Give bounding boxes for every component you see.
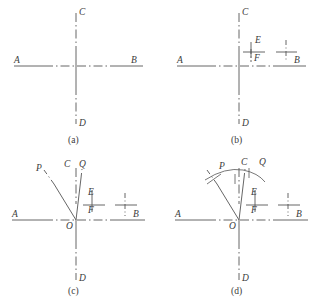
panel-d-caption: (d): [231, 287, 242, 297]
panel-d-ray-op-dashdot: [207, 170, 217, 184]
panel-c-label-b: B: [133, 210, 139, 220]
panel-c-label-d: D: [79, 274, 86, 284]
panel-a-label-b: B: [131, 56, 137, 66]
panel-c-ray-op-solid: [54, 184, 76, 220]
panel-c-label-c: C: [64, 160, 70, 170]
panel-d-label-q: Q: [259, 158, 266, 168]
panel-b-label-b: B: [294, 56, 300, 66]
panel-b-caption: (b): [231, 136, 242, 146]
panel-c-label-o: O: [66, 222, 73, 232]
panel-c-label-p: P: [36, 164, 42, 174]
panel-d-label-p: P: [219, 162, 225, 172]
panel-b-label-f: F: [254, 54, 260, 64]
panel-a-caption: (a): [68, 136, 79, 146]
panel-c-ray-oq-solid: [76, 178, 81, 220]
panel-d-label-f: F: [251, 206, 257, 216]
panel-a-label-c: C: [79, 8, 85, 18]
panel-d-geometry: [175, 168, 308, 280]
panel-d-ray-op-solid: [217, 184, 239, 220]
panel-c-label-f: F: [88, 206, 94, 216]
panel-d-label-o: O: [229, 222, 236, 232]
panel-d-label-c: C: [241, 158, 247, 168]
panel-d-arc-tick-on-op: [207, 174, 221, 184]
panel-c-ray-op-dashdot: [44, 170, 54, 184]
panel-c-label-a: A: [12, 210, 18, 220]
panel-a-geometry: [14, 13, 143, 124]
panel-d-ray-oq-solid: [239, 178, 244, 220]
panel-c-label-e: E: [88, 188, 94, 198]
panel-d-label-b: B: [296, 210, 302, 220]
panel-a-label-a: A: [14, 56, 20, 66]
panel-b-label-c: C: [242, 8, 248, 18]
panel-a-label-d: D: [79, 119, 86, 129]
panel-b-label-e: E: [255, 36, 261, 46]
panel-c-geometry: [12, 168, 145, 280]
panel-b-geometry: [177, 13, 306, 124]
figure-canvas: [0, 0, 325, 305]
panel-c-label-q: Q: [79, 160, 86, 170]
panel-c-ray-oq-dashdot: [81, 169, 82, 178]
panel-b-label-d: D: [242, 119, 249, 129]
panel-c-caption: (c): [68, 287, 79, 297]
panel-d-label-e: E: [251, 188, 257, 198]
construction-figure: A B C D (a) A B C D E F (b) A B C Q P D …: [0, 0, 325, 305]
panel-d-label-d: D: [242, 274, 249, 284]
panel-b-label-a: A: [177, 56, 183, 66]
panel-d-label-a: A: [175, 210, 181, 220]
